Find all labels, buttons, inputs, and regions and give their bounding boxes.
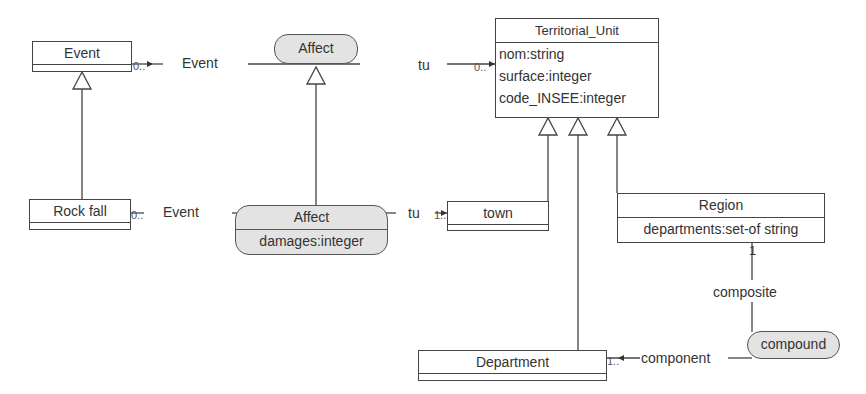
class-attributes	[33, 65, 131, 70]
class-town[interactable]: town	[447, 201, 549, 231]
class-territorial-unit[interactable]: Territorial_Unit nom:string surface:inte…	[495, 18, 659, 118]
attribute-surface: surface:integer	[499, 65, 655, 87]
multiplicity-event-bottom: 0..	[131, 209, 143, 221]
role-event-bottom: Event	[163, 204, 199, 220]
role-event-top: Event	[182, 55, 218, 71]
class-rock-fall[interactable]: Rock fall	[29, 199, 131, 230]
role-tu-top: tu	[418, 57, 430, 73]
association-name: Affect	[236, 206, 387, 229]
attribute-nom: nom:string	[499, 43, 655, 65]
class-title: Department	[419, 351, 606, 374]
association-name: Affect	[298, 40, 334, 56]
multiplicity-tu-bottom: 1..	[434, 209, 446, 221]
class-title: Event	[33, 42, 131, 65]
class-event[interactable]: Event	[32, 41, 132, 72]
class-attributes	[448, 225, 548, 230]
class-title: Territorial_Unit	[496, 19, 658, 43]
role-tu-bottom: tu	[408, 205, 420, 221]
role-composite: composite	[713, 284, 777, 300]
multiplicity-tu-top: 0..	[474, 61, 486, 73]
class-attributes: departments:set-of string	[618, 218, 824, 240]
role-component: component	[641, 350, 710, 366]
class-title: Rock fall	[30, 200, 130, 223]
class-department[interactable]: Department	[418, 350, 607, 381]
class-region[interactable]: Region departments:set-of string	[617, 193, 825, 243]
association-attributes: damages:integer	[236, 229, 387, 253]
class-attributes: nom:string surface:integer code_INSEE:in…	[496, 43, 658, 109]
association-name: compound	[761, 336, 826, 352]
multiplicity-component: 1..	[607, 355, 619, 367]
association-affect-bottom[interactable]: Affect damages:integer	[235, 205, 388, 255]
class-attributes	[30, 223, 130, 228]
attribute-code-insee: code_INSEE:integer	[499, 87, 655, 109]
multiplicity-composite: 1	[749, 243, 756, 258]
attribute-damages: damages:integer	[259, 233, 363, 249]
attribute-departments: departments:set-of string	[621, 218, 821, 240]
class-attributes	[419, 374, 606, 379]
multiplicity-event-top: 0..	[133, 60, 145, 72]
association-compound[interactable]: compound	[747, 331, 840, 359]
class-title: town	[448, 202, 548, 225]
association-affect-top[interactable]: Affect	[274, 34, 358, 64]
class-title: Region	[618, 194, 824, 218]
